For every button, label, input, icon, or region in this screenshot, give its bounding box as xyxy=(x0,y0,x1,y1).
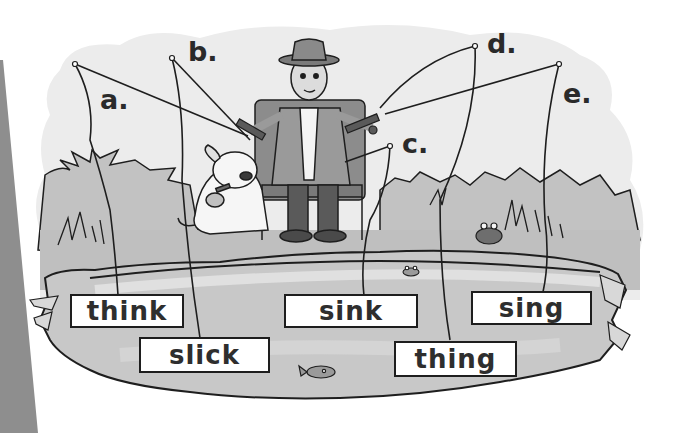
word-card-sink[interactable]: sink xyxy=(284,294,418,328)
swimming-frog xyxy=(403,266,419,276)
word-card-thing[interactable]: thing xyxy=(394,341,517,377)
word-card-slick[interactable]: slick xyxy=(139,337,270,373)
label-d: d. xyxy=(487,30,517,57)
label-c: c. xyxy=(402,130,428,157)
label-b: b. xyxy=(188,38,218,65)
word-card-think[interactable]: think xyxy=(70,294,184,328)
word-card-sing[interactable]: sing xyxy=(471,291,592,325)
label-a: a. xyxy=(100,86,128,113)
fishing-scene-illustration xyxy=(0,0,678,433)
label-e: e. xyxy=(563,80,592,107)
